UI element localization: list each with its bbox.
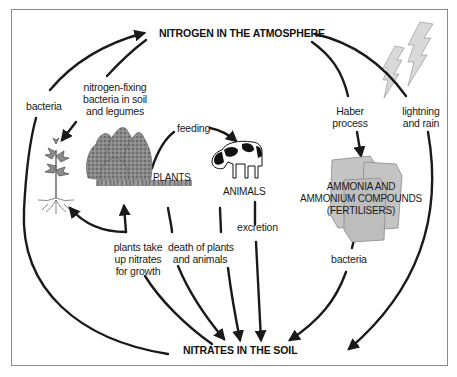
lightning-rain-label: lightning and rain — [396, 105, 446, 129]
lightning-line1: lightning — [396, 105, 446, 117]
fertilisers-label: AMMONIA AND AMMONIUM COMPOUNDS (FERTILIS… — [286, 181, 436, 217]
arrow-nitrogen-fixing-lower — [62, 122, 76, 140]
feeding-label: feeding — [177, 122, 210, 134]
nitrogen-fixing-line1: nitrogen-fixing — [70, 81, 160, 93]
arrow-death-plants — [168, 208, 172, 232]
fertilisers-label-line1: AMMONIA AND — [286, 181, 436, 193]
fertilisers-label-line3: (FERTILISERS) — [286, 205, 436, 217]
haber-process-label: Haber process — [330, 105, 370, 129]
arrow-nitrogen-fixing-upper — [107, 40, 146, 76]
animals-label: ANIMALS — [223, 186, 266, 198]
plants-take-up-label: plants take up nitrates for growth — [108, 241, 168, 277]
fertilisers-label-line2: AMMONIUM COMPOUNDS — [286, 193, 436, 205]
haber-line2: process — [330, 117, 370, 129]
plants-take-line2: up nitrates — [108, 253, 168, 265]
nitrogen-cycle-diagram: NITROGEN IN THE ATMOSPHERE NITRATES IN T… — [0, 0, 457, 377]
bacteria-left-label: bacteria — [26, 100, 62, 112]
arrow-excretion-lower — [256, 242, 261, 340]
plants-take-line1: plants take — [108, 241, 168, 253]
excretion-label: excretion — [237, 221, 278, 233]
soil-title: NITRATES IN THE SOIL — [183, 344, 297, 356]
arrow-uptake-to-seedling — [70, 208, 126, 232]
arrow-uptake-to-plants — [124, 206, 126, 232]
atmosphere-title: NITROGEN IN THE ATMOSPHERE — [159, 27, 325, 39]
plants-take-line3: for growth — [108, 265, 168, 277]
bacteria-right-label: bacteria — [331, 253, 367, 265]
arrow-haber-upper — [312, 42, 348, 96]
death-label: death of plants and animals — [168, 241, 232, 265]
arrow-death-to-soil — [178, 266, 224, 339]
arrow-feeding-end — [210, 128, 236, 141]
arrow-feeding-start — [152, 132, 174, 168]
haber-line1: Haber — [330, 105, 370, 117]
nitrogen-fixing-line2: bacteria in soil — [70, 93, 160, 105]
plants-label: PLANTS — [153, 172, 191, 184]
death-line2: and animals — [168, 253, 232, 265]
lightning-line2: and rain — [396, 117, 446, 129]
seedling-icon — [38, 138, 74, 214]
death-line1: death of plants — [168, 241, 232, 253]
nitrogen-fixing-line3: and legumes — [70, 105, 160, 117]
lightning-icon — [383, 22, 433, 98]
cow-icon — [212, 141, 262, 178]
trees-icon — [86, 128, 152, 185]
arrow-animals-down — [228, 268, 240, 340]
nitrogen-fixing-label: nitrogen-fixing bacteria in soil and leg… — [70, 81, 160, 117]
arrow-death-animals — [220, 208, 221, 232]
arrow-haber-lower — [357, 132, 361, 156]
arrow-fertiliser-bacteria-lower — [290, 272, 346, 340]
